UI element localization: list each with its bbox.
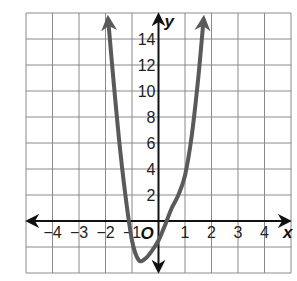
- y-tick-label: 6: [147, 135, 156, 152]
- x-tick-label: 4: [260, 224, 269, 241]
- graph: −4−3−2−112342468101214xyO: [0, 0, 297, 281]
- y-tick-label: 2: [147, 187, 156, 204]
- y-tick-label: 12: [138, 57, 156, 74]
- x-tick-label: 2: [207, 224, 216, 241]
- x-tick-label: 3: [234, 224, 243, 241]
- x-tick-label: −2: [96, 224, 114, 241]
- y-tick-label: 10: [138, 83, 156, 100]
- y-axis-label: y: [164, 12, 176, 31]
- tick-labels: −4−3−2−112342468101214xyO: [43, 12, 294, 243]
- y-tick-label: 4: [147, 161, 156, 178]
- y-tick-label: 14: [138, 31, 156, 48]
- x-tick-label: 1: [181, 224, 190, 241]
- origin-label: O: [141, 224, 154, 243]
- y-tick-label: 8: [147, 109, 156, 126]
- x-tick-label: −4: [43, 224, 61, 241]
- x-axis-label: x: [282, 223, 294, 242]
- x-tick-label: −3: [70, 224, 88, 241]
